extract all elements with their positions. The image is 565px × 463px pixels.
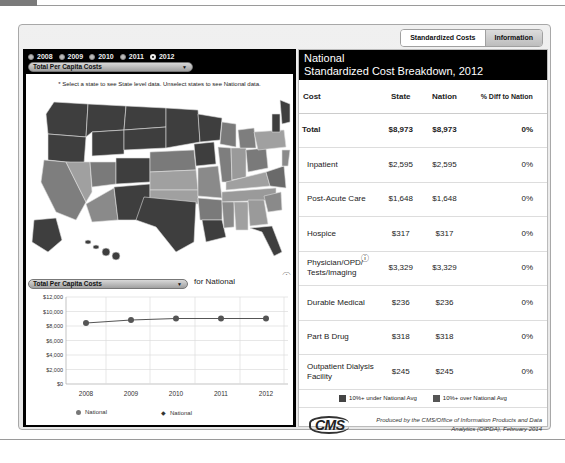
svg-text:2010: 2010: [169, 390, 184, 397]
year-selector: 2008 2009 2010 2011 2012: [28, 53, 175, 60]
comparison-legend: 10%+ under National Avg 10%+ over Nation…: [299, 390, 547, 408]
map-panel: 2008 2009 2010 2011 2012 Total Per Capit…: [23, 49, 296, 427]
radio-icon: [89, 54, 95, 60]
svg-text:$12,000: $12,000: [43, 294, 63, 300]
svg-text:$10,000: $10,000: [43, 309, 63, 315]
row-label: Durable Medical: [299, 286, 379, 321]
nation-value: $2,595: [422, 148, 466, 183]
dashboard-frame: Standardized Costs Information 2008 2009…: [18, 24, 551, 430]
pct-diff: 0%: [467, 286, 548, 321]
table-row: Outpatient Dialysis Facility $245 $245 0…: [299, 355, 547, 390]
nation-value: $317: [422, 217, 466, 252]
diamond-marker-icon: ◆: [161, 409, 166, 416]
tab-standardized-costs[interactable]: Standardized Costs: [401, 30, 484, 46]
year-label: 2008: [37, 53, 53, 60]
radio-icon: [28, 54, 34, 60]
info-icon[interactable]: ⓘ: [361, 254, 369, 264]
state-value: $245: [379, 355, 422, 390]
trend-measure-dropdown[interactable]: Total Per Capita Costs ▼: [28, 279, 188, 289]
footer: CMS Produced by the CMS/Office of Inform…: [299, 408, 547, 442]
legend-under: 10%+ under National Avg: [339, 395, 417, 402]
chart-legend-item: ◆National: [161, 409, 192, 416]
row-label-cell: Physician/OPD/ Tests/Imaging ⓘ: [299, 251, 379, 286]
us-state-map[interactable]: [26, 92, 293, 262]
state-value: $2,595: [379, 148, 422, 183]
us-map: * Select a state to see State level data…: [26, 74, 293, 280]
pct-diff: 0%: [467, 113, 548, 148]
svg-text:2011: 2011: [214, 390, 228, 397]
col-state: State: [379, 80, 422, 113]
radio-selected-icon: [150, 54, 156, 60]
pct-diff: 0%: [467, 148, 548, 183]
year-2012-radio[interactable]: 2012: [150, 53, 175, 60]
svg-text:2009: 2009: [124, 390, 139, 397]
legend-label: 10%+ over National Avg: [443, 395, 507, 401]
top-bar: [0, 0, 565, 6]
legend-label: 10%+ under National Avg: [349, 395, 417, 401]
table-row: Post-Acute Care $1,648 $1,648 0%: [299, 182, 547, 217]
nation-value: $245: [422, 355, 466, 390]
svg-text:2008: 2008: [79, 390, 94, 397]
dropdown-value: Total Per Capita Costs: [33, 63, 102, 70]
table-row: Physician/OPD/ Tests/Imaging ⓘ $3,329 $3…: [299, 251, 547, 286]
nation-value: $1,648: [422, 182, 466, 217]
state-value: $317: [379, 217, 422, 252]
trend-line-chart: $12,000 $10,000 $8,000 $6,000 $4,000 $2,…: [26, 289, 293, 409]
nation-value: $3,329: [422, 251, 466, 286]
circle-marker-icon: [76, 410, 81, 415]
pct-diff: 0%: [467, 320, 548, 355]
state-value: $236: [379, 286, 422, 321]
row-label: Hospice: [299, 217, 379, 252]
svg-text:$0: $0: [57, 381, 63, 387]
row-label: Inpatient: [299, 148, 379, 183]
radio-icon: [59, 54, 65, 60]
map-instruction: * Select a state to see State level data…: [26, 81, 293, 87]
svg-text:$8,000: $8,000: [46, 323, 63, 329]
row-label: Physician/OPD/ Tests/Imaging: [307, 258, 363, 277]
year-2008-radio[interactable]: 2008: [28, 53, 53, 60]
table-row: Durable Medical $236 $236 0%: [299, 286, 547, 321]
year-2009-radio[interactable]: 2009: [59, 53, 84, 60]
row-label: Outpatient Dialysis Facility: [299, 355, 379, 390]
swatch-icon: [339, 395, 346, 402]
col-nation: Nation: [422, 80, 466, 113]
nation-value: $318: [422, 320, 466, 355]
legend-label: National: [170, 410, 192, 416]
state-value: $318: [379, 320, 422, 355]
radio-icon: [120, 54, 126, 60]
state-value: $8,973: [379, 113, 422, 148]
produced-by-text: Produced by the CMS/Office of Informatio…: [367, 416, 542, 434]
table-row-total: Total $8,973 $8,973 0%: [299, 113, 547, 148]
svg-text:2012: 2012: [259, 390, 274, 397]
swatch-icon: [433, 395, 440, 402]
cost-table: Cost State Nation % Diff to Nation Total…: [299, 80, 547, 390]
col-pct-diff: % Diff to Nation: [467, 80, 548, 113]
state-value: $3,329: [379, 251, 422, 286]
year-label: 2011: [129, 53, 144, 60]
title-subtitle: Standardized Cost Breakdown, 2012: [304, 65, 542, 78]
breakdown-title: National Standardized Cost Breakdown, 20…: [299, 50, 547, 80]
table-row: Inpatient $2,595 $2,595 0%: [299, 148, 547, 183]
year-2011-radio[interactable]: 2011: [120, 53, 144, 60]
year-label: 2009: [68, 53, 84, 60]
bottom-divider: [0, 439, 565, 440]
row-label: Post-Acute Care: [299, 182, 379, 217]
pct-diff: 0%: [467, 251, 548, 286]
pct-diff: 0%: [467, 217, 548, 252]
legend-label: National: [85, 409, 107, 415]
view-toggle: Standardized Costs Information: [400, 29, 543, 47]
col-cost: Cost: [299, 80, 379, 113]
trend-panel: Total Per Capita Costs ▼ for National: [26, 275, 293, 425]
table-row: Hospice $317 $317 0%: [299, 217, 547, 252]
tab-information[interactable]: Information: [485, 30, 543, 46]
row-label: Total: [299, 113, 379, 148]
svg-text:$6,000: $6,000: [46, 338, 63, 344]
map-measure-dropdown[interactable]: Total Per Capita Costs ▼: [28, 62, 193, 72]
row-label: Part B Drug: [299, 320, 379, 355]
top-tab[interactable]: [0, 0, 37, 6]
trend-scope-label: for National: [194, 277, 235, 286]
table-row: Part B Drug $318 $318 0%: [299, 320, 547, 355]
svg-text:$4,000: $4,000: [46, 352, 63, 358]
chevron-down-icon: ▼: [177, 280, 182, 288]
year-2010-radio[interactable]: 2010: [89, 53, 114, 60]
